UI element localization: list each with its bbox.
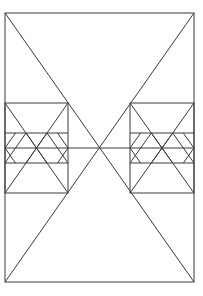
geometric-diagram	[0, 0, 203, 296]
right-lattice-line	[130, 133, 141, 148]
left-lattice-line	[5, 133, 16, 148]
left-lattice-line	[58, 133, 69, 148]
right-lattice-line	[183, 133, 194, 148]
